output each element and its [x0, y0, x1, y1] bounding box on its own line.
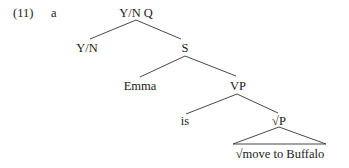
- branch-ynq-s: [136, 20, 181, 39]
- branch-vp-is: [186, 94, 237, 114]
- node-yn: Y/N: [76, 42, 98, 55]
- node-rootp: √P: [272, 115, 286, 128]
- tree-branches: [0, 0, 349, 168]
- branch-vp-rootp: [237, 94, 278, 113]
- branch-s-vp: [185, 56, 236, 76]
- branch-s-emma: [140, 56, 185, 77]
- node-leaf: √move to Buffalo: [236, 148, 325, 161]
- branch-ynq-yn: [90, 20, 136, 39]
- node-vp: VP: [230, 80, 246, 93]
- triangle-left: [233, 127, 279, 144]
- node-emma: Emma: [124, 80, 157, 93]
- node-ynq: Y/N Q: [119, 7, 153, 20]
- triangle-right: [279, 127, 326, 144]
- example-number: (11): [13, 7, 33, 20]
- node-is: is: [181, 115, 189, 128]
- node-s: S: [182, 42, 189, 55]
- example-letter: a: [51, 7, 57, 20]
